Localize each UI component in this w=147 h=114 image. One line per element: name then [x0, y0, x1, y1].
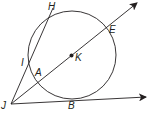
label-b: B [68, 101, 75, 111]
label-a: A [35, 68, 42, 78]
label-j: J [1, 101, 6, 111]
center-point-k [70, 54, 74, 58]
label-k: K [75, 53, 82, 63]
ray-je [11, 3, 137, 104]
label-e: E [109, 25, 116, 35]
label-h: H [48, 2, 55, 12]
geometry-diagram: H E K I A J B [0, 0, 147, 114]
ray-jb [11, 97, 146, 104]
label-i: I [21, 58, 24, 68]
segment-jh [11, 8, 53, 104]
